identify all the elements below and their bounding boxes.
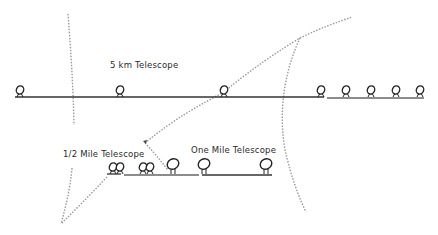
dashed-track-left (68, 14, 74, 125)
telescope-icon (316, 85, 326, 97)
telescopes-5km (15, 85, 425, 97)
dashed-track-left-lower (61, 168, 72, 224)
telescope-icon (115, 162, 125, 174)
telescope-icon (115, 85, 125, 97)
telescope-icon (366, 85, 376, 97)
telescope-icon (391, 85, 401, 97)
telescope-icon (145, 162, 155, 174)
telescope-icon (415, 85, 425, 97)
dashed-track-center-diag (145, 92, 224, 143)
telescope-diagram (0, 0, 438, 235)
telescopes-half-mile (108, 157, 181, 174)
dashed-track-right-curve (282, 38, 306, 212)
label-one-mile-telescope: One Mile Telescope (191, 145, 276, 155)
telescopes-one-mile (196, 157, 273, 174)
telescope-icon (15, 85, 25, 97)
dashed-track-main-diag (224, 17, 352, 92)
label-5km-telescope: 5 km Telescope (110, 60, 178, 70)
telescope-icon (258, 157, 273, 174)
telescope-icon (341, 85, 351, 97)
telescope-icon (165, 157, 180, 174)
label-half-mile-telescope: 1/2 Mile Telescope (63, 149, 144, 159)
telescope-icon (196, 157, 211, 174)
telescope-icon (219, 85, 229, 97)
dashed-track-left-diag (61, 177, 107, 224)
